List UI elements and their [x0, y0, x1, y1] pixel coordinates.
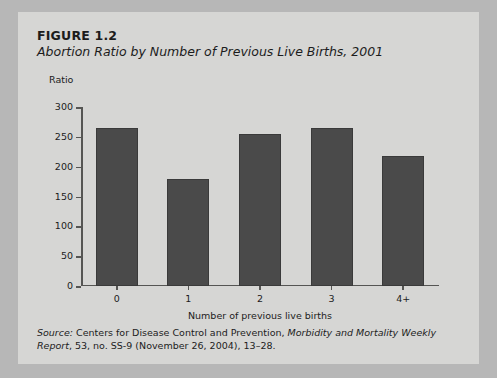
source-label: Source:	[37, 327, 73, 338]
y-tick-label: 150	[55, 191, 73, 202]
y-tick-mark	[76, 286, 81, 288]
y-tick-mark	[76, 226, 81, 228]
y-tick-mark	[76, 137, 81, 139]
bar	[167, 179, 209, 286]
source-note: Source: Centers for Disease Control and …	[37, 326, 462, 352]
bar	[96, 128, 138, 286]
y-tick-mark	[76, 197, 81, 199]
y-tick-label: 100	[55, 220, 73, 231]
y-tick-label: 300	[55, 101, 73, 112]
chart-axes: 050100150200250300 01234+	[81, 107, 439, 286]
x-tick-label: 2	[257, 293, 263, 304]
y-tick-label: 250	[55, 131, 73, 142]
x-tick-mark	[402, 286, 404, 290]
figure-card: FIGURE 1.2 Abortion Ratio by Number of P…	[18, 12, 479, 364]
x-axis-label: Number of previous live births	[81, 310, 439, 321]
y-tick-mark	[76, 256, 81, 258]
y-tick-mark	[76, 107, 81, 109]
bar	[311, 128, 353, 286]
bar	[239, 134, 281, 286]
y-tick-label: 50	[61, 250, 73, 261]
figure-header: FIGURE 1.2 Abortion Ratio by Number of P…	[37, 28, 457, 60]
bar	[382, 156, 424, 286]
source-body-1: Centers for Disease Control and Preventi…	[73, 327, 288, 338]
x-tick-label: 0	[114, 293, 120, 304]
x-tick-label: 3	[329, 293, 335, 304]
figure-number: FIGURE 1.2	[37, 28, 457, 43]
y-axis-label: Ratio	[49, 74, 73, 85]
x-tick-mark	[331, 286, 333, 290]
chart-plot-area: Ratio 050100150200250300 01234+ Number o…	[37, 74, 457, 326]
x-tick-mark	[188, 286, 190, 290]
y-tick-label: 200	[55, 161, 73, 172]
x-tick-label: 4+	[396, 293, 410, 304]
source-body-2: , 53, no. SS-9 (November 26, 2004), 13–2…	[69, 340, 276, 351]
y-tick-label: 0	[67, 280, 73, 291]
y-tick-mark	[76, 167, 81, 169]
figure-title: Abortion Ratio by Number of Previous Liv…	[37, 44, 457, 60]
y-axis-line	[81, 107, 83, 286]
x-tick-label: 1	[185, 293, 191, 304]
x-tick-mark	[116, 286, 118, 290]
x-tick-mark	[259, 286, 261, 290]
